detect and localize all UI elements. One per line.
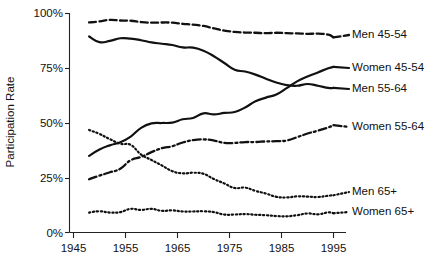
chart-container: Participation Rate 100% 75% 50% 25% 0% 1… xyxy=(0,0,433,267)
series-group xyxy=(89,20,349,217)
x-tick-label-1975: 1975 xyxy=(217,242,243,254)
series-label-men-65-plus: Men 65+ xyxy=(352,185,397,197)
series-label-women-45-54: Women 45-54 xyxy=(352,61,425,73)
series-line-women-55-64 xyxy=(89,125,333,179)
x-tick-label-1945: 1945 xyxy=(61,242,87,254)
y-tick-label-75: 75% xyxy=(40,62,63,74)
series-label-men-45-54: Men 45-54 xyxy=(352,28,408,40)
series-label-women-55-64: Women 55-64 xyxy=(352,120,425,132)
series-line-men-45-54 xyxy=(89,20,333,38)
x-tick-label-1965: 1965 xyxy=(165,242,191,254)
y-tick-label-100: 100% xyxy=(34,7,63,19)
x-tick-label-1955: 1955 xyxy=(113,242,139,254)
series-label-connector xyxy=(334,35,350,37)
series-line-women-65 xyxy=(89,209,333,217)
series-line-women-45-54 xyxy=(89,67,333,156)
series-label-women-65-plus: Women 65+ xyxy=(352,205,414,217)
series-label-connector xyxy=(334,125,350,127)
series-label-connector xyxy=(334,88,350,89)
x-tick-label-1985: 1985 xyxy=(269,242,295,254)
y-axis-title: Participation Rate xyxy=(4,77,16,168)
y-tick-label-0: 0% xyxy=(46,227,63,239)
x-tick-label-1995: 1995 xyxy=(321,242,347,254)
series-label-connector xyxy=(334,192,350,195)
series-label-connector xyxy=(334,212,350,213)
series-label-connector xyxy=(334,67,350,68)
series-label-men-55-64: Men 55-64 xyxy=(352,82,408,94)
participation-rate-line-chart: Participation Rate 100% 75% 50% 25% 0% 1… xyxy=(0,0,433,267)
y-tick-label-25: 25% xyxy=(40,172,63,184)
y-tick-label-50: 50% xyxy=(40,117,63,129)
